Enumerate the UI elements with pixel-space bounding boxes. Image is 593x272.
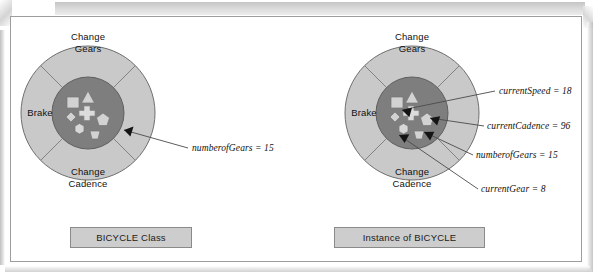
sector-label-change-cadence: Change Cadence <box>48 166 128 189</box>
sector-label-brake: Brake <box>342 107 386 119</box>
sector-label-brake: Brake <box>18 107 62 119</box>
caption-bicycle-class: BICYCLE Class <box>70 227 192 248</box>
caption-bicycle-instance: Instance of BICYCLE <box>334 227 485 248</box>
annotation-label-numberofgears: numberofGears = 15 <box>476 150 558 160</box>
annotation-label-numberofgears: numberofGears = 15 <box>192 143 274 153</box>
sector-label-change-cadence: Change Cadence <box>372 166 452 189</box>
sector-label-change-gears: Change Gears <box>48 31 128 54</box>
annotation-label-currentcadence: currentCadence = 96 <box>487 121 570 131</box>
figure-page: Change Gears Brake Change Cadence Change… <box>0 0 593 272</box>
sector-label-change-gears: Change Gears <box>372 31 452 54</box>
annotation-label-currentspeed: currentSpeed = 18 <box>499 86 572 96</box>
annotation-label-currentgear: currentGear = 8 <box>481 184 546 194</box>
